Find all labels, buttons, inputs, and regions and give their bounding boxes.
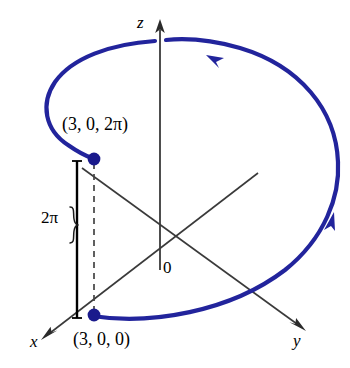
bottom-endpoint-label: (3, 0, 0) <box>73 330 130 348</box>
y-axis-line <box>82 168 297 324</box>
helix-arrowhead-top <box>206 55 224 68</box>
x-axis-line <box>50 173 258 333</box>
z-axis-label: z <box>137 14 144 31</box>
helix-front-lower-arc <box>92 162 338 319</box>
helix-back-left-arc <box>46 41 155 158</box>
x-axis-label: x <box>30 333 38 350</box>
helix-figure: z x y 0 (3, 0, 2π) (3, 0, 0) 2π <box>0 0 350 368</box>
origin-label: 0 <box>163 259 172 276</box>
top-endpoint-dot <box>88 153 101 166</box>
y-axis-label: y <box>293 332 301 349</box>
axes-group <box>41 19 306 340</box>
helix-right-upper-arc <box>166 39 338 162</box>
helix-curve-group <box>46 39 338 318</box>
helix-diagram-canvas <box>0 0 350 368</box>
height-markers-group <box>70 161 94 318</box>
bottom-endpoint-dot <box>88 309 101 322</box>
top-endpoint-label: (3, 0, 2π) <box>62 115 128 133</box>
height-label: 2π <box>41 209 58 226</box>
